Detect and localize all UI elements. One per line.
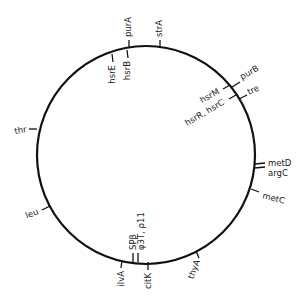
locus-label: thyA: [186, 258, 202, 280]
locus-label: hsrB: [122, 61, 132, 80]
locus-tick: [239, 95, 247, 99]
circular-map-svg: purAstrAhsrEhsrBpurBtrehsrMhsrR, hsrCmet…: [0, 0, 305, 308]
locus-marker-metD: metD: [255, 158, 292, 168]
locus-label: argC: [268, 168, 288, 178]
locus-tick: [251, 189, 259, 192]
genetic-map-diagram: purAstrAhsrEhsrBpurBtrehsrMhsrR, hsrCmet…: [0, 0, 305, 308]
locus-marker-citK: citK: [143, 262, 153, 289]
locus-tick: [127, 50, 128, 58]
locus-marker-ilvA: ilvA: [116, 260, 126, 287]
locus-tick: [223, 85, 230, 89]
locus-tick: [112, 54, 113, 62]
locus-label: leu: [24, 206, 40, 220]
locus-label: citK: [143, 273, 153, 289]
locus-marker-strA: strA: [154, 20, 164, 48]
locus-label: metC: [261, 190, 286, 206]
locus-label: metD: [268, 158, 292, 168]
locus-label: φ3T, ρ11: [136, 212, 146, 250]
locus-tick: [229, 95, 236, 99]
locus-label: purB: [238, 63, 261, 82]
locus-marker-hsrE: hsrE: [107, 54, 117, 84]
locus-tick: [255, 167, 265, 168]
locus-marker-argC: argC: [255, 167, 288, 178]
locus-marker-phi3T: φ3T, ρ11: [136, 212, 146, 262]
locus-tick: [42, 206, 50, 210]
locus-tick: [232, 82, 240, 87]
locus-label: ilvA: [116, 271, 126, 287]
locus-label: purA: [123, 17, 133, 37]
locus-marker-leu: leu: [24, 206, 50, 220]
locus-label: hsrE: [107, 65, 117, 84]
locus-tick: [255, 163, 265, 164]
locus-label: strA: [154, 20, 164, 37]
locus-marker-hsrB: hsrB: [122, 50, 132, 80]
locus-label: tre: [246, 83, 261, 97]
locus-marker-tre: tre: [239, 83, 261, 99]
chromosome-circle: [37, 46, 255, 264]
locus-label: thr: [14, 124, 28, 136]
locus-marker-purA: purA: [123, 17, 133, 48]
marker-group: purAstrAhsrEhsrBpurBtrehsrMhsrR, hsrCmet…: [14, 17, 292, 289]
locus-marker-metC: metC: [251, 189, 286, 206]
locus-marker-thr: thr: [14, 124, 37, 136]
